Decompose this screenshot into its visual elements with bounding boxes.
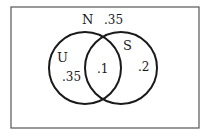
outside-value: .35 [104,13,123,27]
universe-label: N [82,12,93,27]
set-u-only-value: .35 [62,70,81,84]
intersection-value: .1 [97,62,108,76]
set-u-label: U [57,50,68,65]
set-s-only-value: .2 [138,60,149,74]
venn-diagram: N .35 U S .35 .1 .2 [0,0,210,136]
set-s-label: S [123,38,132,53]
